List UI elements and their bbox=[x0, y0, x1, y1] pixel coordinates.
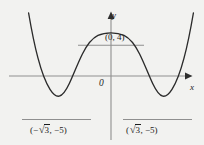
y-axis-label: y bbox=[112, 11, 116, 20]
left-minimum-label: (−√3, −5) bbox=[30, 125, 67, 135]
local-maximum-label: (0, 4) bbox=[105, 33, 125, 42]
right-minimum-label: (√3, −5) bbox=[126, 125, 158, 135]
left-minimum-radical: √3 bbox=[38, 125, 50, 135]
graph-figure: y x 0 (0, 4) (−√3, −5) (√3, −5) bbox=[0, 0, 204, 145]
coordinate-plot bbox=[0, 0, 204, 145]
left-minimum-suffix: , −5) bbox=[50, 125, 67, 135]
right-minimum-suffix: , −5) bbox=[141, 125, 158, 135]
x-axis-arrowhead bbox=[185, 73, 193, 80]
radical-sign-icon: √ bbox=[130, 124, 136, 135]
origin-label: 0 bbox=[99, 79, 104, 89]
radical-sign-icon: √ bbox=[39, 124, 45, 135]
right-minimum-radical: √3 bbox=[129, 125, 141, 135]
left-minimum-prefix: (− bbox=[30, 125, 38, 135]
x-axis-label: x bbox=[190, 83, 194, 92]
